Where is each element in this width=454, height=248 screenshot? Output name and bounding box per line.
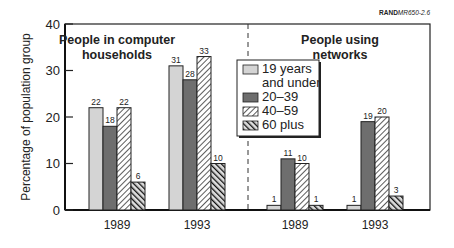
panel-title: networks [313, 48, 368, 62]
data-label: 6 [136, 171, 141, 181]
bar [131, 182, 145, 210]
data-label: 1 [272, 194, 277, 204]
data-label: 31 [171, 55, 181, 65]
legend-swatch [243, 93, 258, 102]
source-rest: MR650-2.6 [398, 9, 431, 16]
data-label: 18 [105, 115, 115, 125]
legend-label: 20–39 [262, 89, 298, 104]
y-tick-label: 0 [53, 203, 60, 218]
y-tick-label: 30 [46, 63, 60, 78]
bar [89, 108, 103, 210]
bar [281, 159, 295, 210]
bar [103, 126, 117, 210]
bar [375, 117, 389, 210]
bar [169, 66, 183, 210]
bar [183, 80, 197, 210]
legend-swatch [243, 121, 258, 130]
x-tick-label: 1989 [104, 218, 131, 232]
x-tick-label: 1993 [362, 218, 389, 232]
data-label: 28 [185, 69, 195, 79]
source-label: RANDMR650-2.6 [379, 9, 430, 16]
y-tick-label: 10 [46, 156, 60, 171]
data-label: 22 [119, 97, 129, 107]
bar [267, 205, 281, 210]
legend-label: and under [262, 75, 321, 90]
legend-label: 60 plus [262, 117, 304, 132]
data-label: 22 [91, 97, 101, 107]
panel-title: People using [301, 33, 379, 47]
source-bold: RAND [379, 9, 398, 16]
bar [361, 122, 375, 210]
legend-label: 40–59 [262, 103, 298, 118]
bar [211, 164, 225, 211]
x-tick-label: 1989 [282, 218, 309, 232]
data-label: 1 [352, 194, 357, 204]
data-label: 10 [297, 153, 307, 163]
bar [389, 196, 403, 210]
chart: RANDMR650-2.6 010203040Percentage of pop… [0, 0, 454, 248]
bar [117, 108, 131, 210]
data-label: 11 [284, 148, 293, 158]
panel-title: People in computer [59, 33, 175, 47]
y-tick-label: 20 [46, 110, 60, 125]
data-label: 1 [314, 194, 319, 204]
legend-swatch [243, 107, 258, 116]
bar [295, 164, 309, 211]
legend-label: 19 years [262, 61, 312, 76]
legend-swatch [243, 65, 258, 74]
y-axis-label: Percentage of population group [19, 33, 33, 201]
y-tick-label: 40 [46, 17, 60, 32]
data-label: 3 [394, 185, 399, 195]
data-label: 33 [199, 46, 209, 56]
bar [197, 57, 211, 210]
bar [347, 205, 361, 210]
data-label: 20 [377, 106, 387, 116]
data-label: 10 [213, 153, 223, 163]
panel-title: households [82, 48, 152, 62]
x-tick-label: 1993 [184, 218, 211, 232]
bar [309, 205, 323, 210]
data-label: 19 [363, 111, 373, 121]
